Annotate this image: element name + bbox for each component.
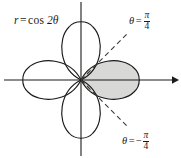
upper-ray-fraction: π 4 [144, 11, 151, 33]
equation-operator: cos [28, 14, 44, 26]
equation-relation: = [18, 14, 28, 26]
lower-ray-denominator: 4 [143, 142, 150, 152]
lower-ray-relation: = [127, 135, 136, 146]
equation-label: r=cos 2θ [14, 15, 59, 27]
upper-ray-relation: = [134, 15, 143, 26]
upper-ray-label: θ= π 4 [129, 11, 150, 33]
lower-ray-label: θ=− π 4 [122, 131, 149, 153]
x-axis-arrowhead [172, 76, 179, 84]
upper-ray-numerator: π [144, 11, 151, 21]
lower-ray-fraction: π 4 [143, 131, 150, 153]
lower-ray-numerator: π [143, 131, 150, 141]
upper-ray-denominator: 4 [144, 22, 151, 32]
equation-argument: 2θ [47, 14, 58, 26]
